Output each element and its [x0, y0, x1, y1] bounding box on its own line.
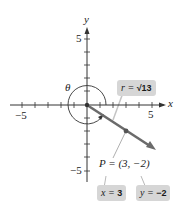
vector-r — [87, 105, 150, 146]
callout-x-value: 3 — [117, 188, 122, 198]
x-tick-label-5: 5 — [148, 109, 154, 120]
callout-x: x = 3 — [97, 185, 126, 201]
y-axis-arrow — [85, 27, 90, 34]
callout-x-prefix: x = — [101, 187, 117, 198]
point-p — [124, 129, 129, 134]
diagram-svg — [0, 0, 182, 205]
callout-y-value: −2 — [156, 188, 166, 198]
callout-r-prefix: r = — [121, 82, 137, 93]
y-axis-label: y — [84, 14, 89, 25]
callout-y-prefix: y = — [140, 187, 156, 198]
x-tick-label-neg5: −5 — [15, 110, 27, 121]
theta-label: θ — [65, 82, 70, 93]
leader-p — [113, 131, 126, 158]
callout-y: y = −2 — [136, 185, 170, 201]
x-axis-label: x — [168, 98, 173, 109]
point-p-text: P = (3, −2) — [99, 157, 150, 169]
coordinate-diagram: y x 5 −5 −5 5 θ P = (3, −2) r = √13 x = … — [0, 0, 182, 205]
callout-r-value: √13 — [137, 83, 152, 93]
y-tick-label-5: 5 — [76, 33, 82, 44]
vector-arrowhead — [146, 141, 156, 150]
point-p-label: P = (3, −2) — [99, 158, 150, 169]
origin-point — [85, 103, 89, 107]
y-tick-label-neg5: −5 — [70, 165, 82, 176]
callout-r: r = √13 — [117, 80, 156, 96]
x-axis-arrow — [159, 103, 166, 108]
